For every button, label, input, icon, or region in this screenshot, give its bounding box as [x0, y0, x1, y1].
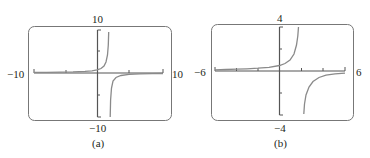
graph-b-xmax-label: 6: [356, 66, 362, 78]
graph-b-xmin-label: −6: [194, 66, 206, 78]
graph-a-xmin-label: −10: [7, 68, 24, 80]
graph-a-ymax-label: 10: [92, 13, 103, 25]
graph-a-xmax-label: 10: [172, 68, 183, 80]
graph-b-ymin-label: −4: [274, 122, 286, 134]
graph-a-caption: (a): [92, 137, 104, 149]
graph-a-curve-right: [110, 74, 163, 118]
graph-a-ymin-label: −10: [89, 122, 106, 134]
graph-b-caption: (b): [274, 137, 287, 149]
graph-b-frame: [212, 25, 354, 121]
graph-panel-b: −6 6 4 −4 (b): [185, 0, 370, 158]
graph-b-ymax-label: 4: [277, 12, 283, 24]
graph-b-curve-left: [215, 27, 299, 70]
graph-panel-a: −10 10 10 −10 (a): [0, 0, 185, 158]
graph-b-curve-right: [304, 73, 345, 114]
